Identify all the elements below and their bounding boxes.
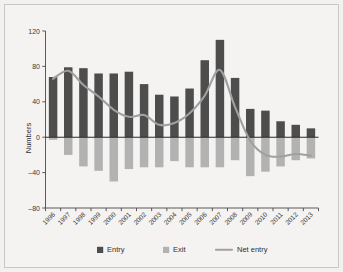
exit-bar [125,137,133,169]
x-tick-label: 1997 [56,211,72,227]
entry-bar [261,111,269,138]
entry-bar [110,73,118,137]
exit-bar [140,137,148,167]
x-tick-label: 2004 [162,211,178,227]
chart-figure: Numbers –80–4004080120 19961997199819992… [0,0,343,272]
entry-bar [64,67,72,137]
y-tick-label: 120 [28,28,40,35]
x-tick-label: 2000 [102,211,118,227]
entry-bar [140,84,148,137]
net-entry-line [53,70,311,157]
x-tick-label: 2001 [117,211,133,227]
exit-bar [201,137,209,167]
legend-label-net-entry: Net entry [237,245,268,254]
entry-bar [170,96,178,137]
entry-bar [155,95,163,137]
exit-bar [292,137,300,160]
exit-bar [231,137,239,160]
exit-bar [155,137,163,167]
y-tick-label: 80 [32,63,40,70]
x-tick-label: 2002 [132,211,148,227]
entry-bar [94,73,102,137]
net-entry-line-path [53,70,311,157]
exit-bar [276,137,284,166]
y-tick-label: –40 [28,169,40,176]
x-tick-label: 1999 [86,211,102,227]
x-tick-label: 2007 [208,211,224,227]
exit-bar [185,137,193,167]
legend-swatch-entry [97,247,103,253]
exit-bar [64,137,72,155]
x-tick-label: 2012 [284,211,300,227]
x-tick-label: 2009 [238,211,254,227]
exit-bar [79,137,87,166]
chart-legend: EntryExitNet entry [97,245,268,254]
entry-bar [125,72,133,137]
entry-bar [79,68,87,137]
chart-plot-area: Numbers –80–4004080120 19961997199819992… [0,0,343,272]
exit-bar [216,137,224,167]
legend-label-entry: Entry [107,245,125,254]
legend-swatch-exit [163,247,169,253]
entry-bar [276,121,284,137]
entry-bar [49,77,57,137]
y-tick-label: 40 [32,98,40,105]
legend-label-exit: Exit [173,245,186,254]
x-tick-label: 2008 [223,211,239,227]
x-tick-label: 2003 [147,211,163,227]
x-tick-label: 2006 [193,211,209,227]
exit-bar [94,137,102,171]
x-tick-label: 2005 [177,211,193,227]
entry-bar [216,40,224,137]
exit-bar [110,137,118,181]
y-tick-label: –80 [28,205,40,212]
exit-bar [246,137,254,176]
x-tick-label: 1998 [71,211,87,227]
x-tick-label: 2010 [253,211,269,227]
y-tick-label: 0 [36,134,40,141]
x-tick-label: 1996 [41,211,57,227]
exit-bars-group [49,137,315,181]
x-axis-tick-labels: 1996199719981999200020012002200320042005… [41,211,314,227]
y-axis-title: Numbers [24,123,33,154]
exit-bar [170,137,178,161]
x-tick-label: 2013 [299,211,315,227]
entry-bar [292,125,300,137]
bar-line-chart: Numbers –80–4004080120 19961997199819992… [0,0,343,272]
entry-bar [307,128,315,137]
y-axis-ticks: –80–4004080120 [28,28,45,212]
x-tick-label: 2011 [269,211,284,226]
